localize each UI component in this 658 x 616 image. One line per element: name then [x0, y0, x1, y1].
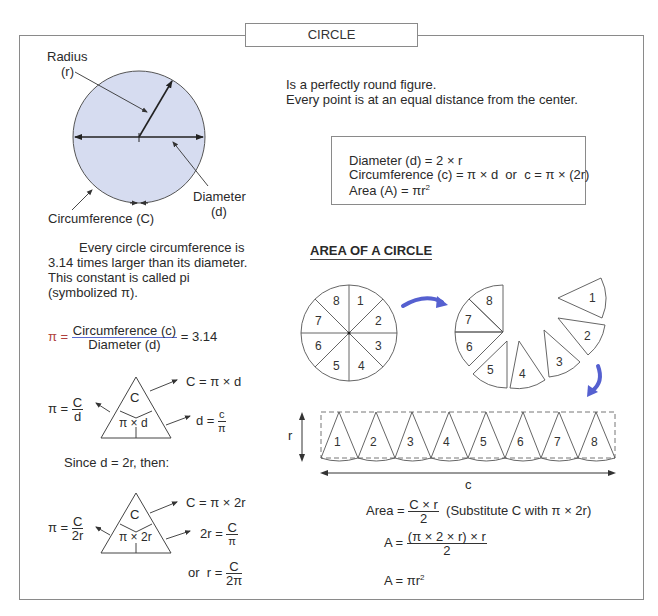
svg-text:2: 2: [370, 435, 377, 449]
svg-text:8: 8: [486, 294, 493, 308]
svg-text:3: 3: [556, 355, 563, 369]
svg-text:1: 1: [357, 294, 364, 308]
svg-text:4: 4: [519, 367, 526, 381]
svg-text:3: 3: [407, 435, 414, 449]
r-label: r: [288, 428, 292, 443]
svg-text:2: 2: [375, 314, 382, 328]
svg-text:8: 8: [591, 435, 598, 449]
svg-text:4: 4: [358, 359, 365, 373]
svg-text:4: 4: [443, 435, 450, 449]
area-derivation-line-1: Area = C × r2 (Substitute C with π × 2r): [366, 498, 591, 525]
c-label: c: [465, 477, 472, 492]
area-derivation-line-3: A = πr2: [384, 570, 425, 588]
area-derivation-line-2: A = (π × 2 × r) × r2: [384, 530, 487, 557]
svg-text:6: 6: [466, 340, 473, 354]
svg-text:2: 2: [584, 329, 591, 343]
svg-text:1: 1: [589, 291, 596, 305]
svg-text:7: 7: [554, 435, 561, 449]
slice-label: 8: [333, 294, 340, 308]
svg-text:7: 7: [315, 314, 322, 328]
svg-text:5: 5: [333, 359, 340, 373]
svg-text:6: 6: [315, 339, 322, 353]
svg-text:1: 1: [334, 435, 341, 449]
svg-text:5: 5: [487, 363, 494, 377]
svg-text:5: 5: [480, 435, 487, 449]
svg-text:3: 3: [375, 339, 382, 353]
svg-text:7: 7: [465, 313, 472, 327]
svg-text:6: 6: [517, 435, 524, 449]
